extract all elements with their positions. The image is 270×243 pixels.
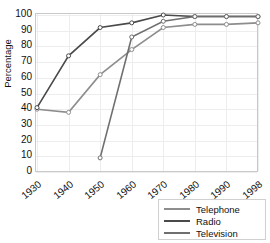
y-tick-label: 80 [2,40,32,50]
data-point-marker [193,15,197,19]
data-point-marker [161,26,165,30]
data-point-marker [130,48,134,52]
data-point-marker [224,22,228,26]
plot-area [35,13,258,172]
y-tick-label: 0 [2,166,32,176]
y-tick-label: 60 [2,72,32,82]
series-layer [36,14,259,173]
x-tick-label: 1960 [109,179,138,206]
legend-item[interactable]: Telephone [164,203,261,215]
data-point-marker [98,26,102,30]
legend: TelephoneRadioTelevision [158,199,266,240]
x-tick-label: 1950 [77,179,106,206]
data-point-marker [130,21,134,25]
y-tick-label: 30 [2,119,32,129]
data-point-marker [67,54,71,58]
data-point-marker [67,110,71,114]
legend-line-swatch [164,220,190,222]
legend-label: Television [196,228,238,239]
y-tick-label: 40 [2,103,32,113]
legend-line-swatch [164,232,190,234]
data-point-marker [161,19,165,23]
y-tick-label: 20 [2,135,32,145]
legend-label: Radio [196,216,221,227]
data-point-marker [193,22,197,26]
legend-item[interactable]: Television [164,227,261,239]
data-point-marker [256,21,260,25]
y-tick-label: 50 [2,88,32,98]
chart-figure: Percentage 0102030405060708090100 193019… [0,0,270,243]
data-point-marker [224,15,228,19]
data-point-marker [130,35,134,39]
data-point-marker [35,106,39,110]
data-point-marker [161,13,165,17]
series-line [100,17,258,158]
y-tick-label: 70 [2,56,32,66]
y-tick-label: 10 [2,150,32,160]
data-point-marker [98,73,102,77]
legend-item[interactable]: Radio [164,215,261,227]
y-tick-label: 100 [2,9,32,19]
y-tick-label: 90 [2,25,32,35]
x-tick-label: 1930 [14,179,43,206]
data-point-marker [98,156,102,160]
series-line [37,23,258,112]
legend-line-swatch [164,208,190,210]
data-point-marker [256,15,260,19]
x-tick-label: 1940 [45,179,74,206]
legend-label: Telephone [196,204,240,215]
